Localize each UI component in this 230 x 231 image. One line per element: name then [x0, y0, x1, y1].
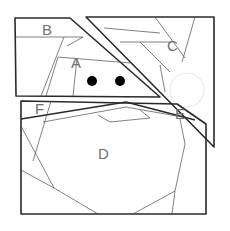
line-c-1 [104, 28, 160, 33]
line-d-right-4 [133, 191, 175, 214]
line-d-right-3 [172, 191, 175, 214]
label-d: D [98, 145, 109, 162]
line-c-6 [160, 65, 165, 92]
line-d-right-2 [175, 144, 185, 191]
piece-diagram: B A C D E F [0, 0, 230, 231]
line-c-4 [182, 17, 195, 62]
line-c-5 [140, 42, 170, 72]
left-dot [87, 76, 97, 86]
line-fd-3 [98, 115, 110, 122]
diagram-canvas: B A C D E F [0, 0, 230, 231]
right-dot [115, 76, 125, 86]
line-a-left-1 [41, 37, 64, 96]
label-f: F [35, 100, 44, 117]
line-b-diag [67, 37, 83, 46]
line-d-left-3 [54, 188, 98, 214]
label-e: E [175, 105, 185, 122]
line-a-left-2 [46, 57, 58, 96]
line-a-top [58, 57, 130, 63]
piece-outline-ab [15, 18, 160, 97]
piece-outline-c [86, 17, 214, 147]
line-fd-4 [110, 118, 150, 122]
faint-circle-mark [170, 73, 204, 107]
label-c: C [167, 37, 178, 54]
label-b: B [42, 21, 52, 38]
line-d-right-1 [180, 119, 185, 144]
label-a: A [71, 54, 81, 71]
